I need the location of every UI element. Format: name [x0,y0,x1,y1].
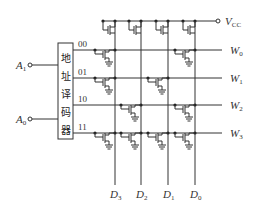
decoder-char-2: 址 [61,70,71,82]
d1-label: D1 [162,188,175,202]
storage-transistor-icon [146,131,169,149]
bit-lines: D3 D2 D1 D0 [109,21,202,202]
storage-transistor-icon [93,76,116,94]
d0-label: D0 [189,188,202,202]
storage-transistor-icon [146,76,169,94]
storage-transistor-icon [173,48,196,66]
storage-transistor-icon [93,131,116,149]
decoder-output-11: 11 [78,122,87,132]
a0-label: A0 [15,113,27,127]
vcc-terminal-icon [216,19,220,23]
storage-transistor-icon [119,103,142,121]
load-transistor-icon [127,19,142,35]
decoder-char-5: 器 [61,125,71,136]
d3-label: D3 [109,188,122,202]
w0-label: W0 [230,44,243,58]
decoder-char-3: 译 [61,89,71,100]
load-transistor-icon [154,19,169,35]
decoder-char-1: 地 [61,52,71,64]
a0-terminal-icon [28,117,32,121]
decoder-char-4: 码 [61,107,71,118]
word-lines: W0 W1 W2 W3 [73,44,243,141]
decoder-output-01: 01 [78,67,87,77]
load-transistors [101,19,196,35]
a1-label: A1 [15,59,27,73]
storage-transistor-icon [93,48,116,66]
address-input-a0: A0 [15,113,58,127]
w2-label: W2 [230,99,243,113]
storage-transistor-icon [119,131,142,149]
address-decoder: 地 址 译 码 器 [58,43,73,139]
decoder-output-00: 00 [78,39,88,49]
vcc-label: VCC [225,15,241,29]
storage-transistors [93,48,196,149]
a1-terminal-icon [28,63,32,67]
w3-label: W3 [230,127,243,141]
load-transistor-icon [101,19,116,35]
load-transistor-icon [181,19,196,35]
vcc-rail: VCC [102,15,241,29]
storage-transistor-icon [173,103,196,121]
decoder-output-10: 10 [78,94,88,104]
w1-label: W1 [230,72,243,86]
rom-circuit-diagram: VCC 地 址 译 码 器 A1 A0 00 01 10 11 W0 W1 W2… [0,0,256,220]
address-input-a1: A1 [15,59,58,73]
d2-label: D2 [135,188,148,202]
storage-transistor-icon [173,131,196,149]
